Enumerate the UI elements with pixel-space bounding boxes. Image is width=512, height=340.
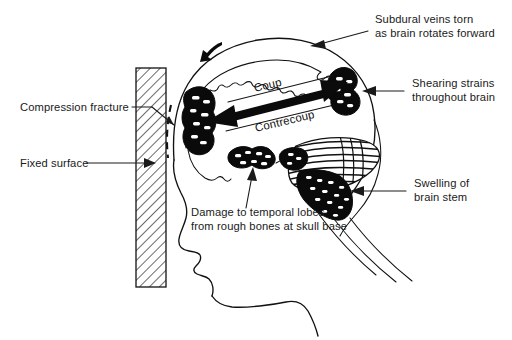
label-subdural-veins-line1: Subdural veins torn bbox=[375, 13, 473, 25]
label-temporal-damage-line2: from rough bones at skull base bbox=[191, 220, 347, 232]
label-shearing-strains-line2: throughout brain bbox=[412, 91, 495, 103]
label-shearing-strains-line1: Shearing strains bbox=[412, 77, 495, 89]
label-subdural-veins-line2: as brain rotates forward bbox=[375, 27, 495, 39]
label-compression-fracture: Compression fracture bbox=[20, 101, 129, 113]
label-temporal-damage-line1: Damage to temporal lobes bbox=[191, 206, 325, 218]
label-fixed-surface: Fixed surface bbox=[20, 157, 88, 169]
label-swelling-brain-stem-line2: brain stem bbox=[414, 191, 467, 203]
canvas-background bbox=[0, 0, 512, 340]
diagram-canvas: Compression fracture Fixed surface Subdu… bbox=[0, 0, 512, 340]
temporal-lobe-contusion-blob bbox=[228, 147, 275, 169]
label-swelling-brain-stem-line1: Swelling of bbox=[414, 177, 470, 189]
fixed-surface-wall bbox=[136, 68, 166, 287]
head-injury-diagram: Compression fracture Fixed surface Subdu… bbox=[0, 0, 512, 340]
